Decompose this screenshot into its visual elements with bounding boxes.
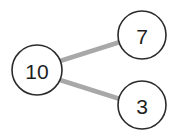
number-bond-canvas: 10 7 3 <box>0 0 178 136</box>
part-top-node-label: 7 <box>136 25 148 48</box>
whole-node-label: 10 <box>25 60 48 83</box>
number-bond-diagram: 10 7 3 <box>0 0 178 136</box>
edge-whole-to-part-top <box>60 42 120 61</box>
edge-whole-to-part-bottom <box>60 80 120 99</box>
part-bottom-node-label: 3 <box>136 95 148 118</box>
